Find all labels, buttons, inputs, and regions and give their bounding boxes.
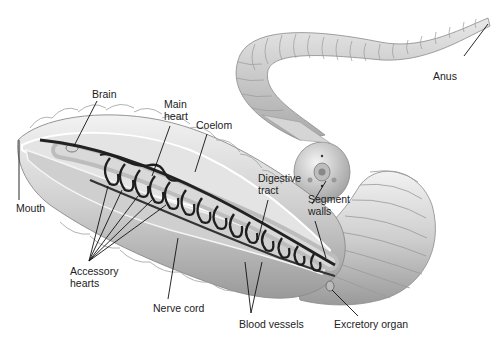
label-nerve-cord: Nerve cord [153, 302, 204, 314]
label-main-heart-line2: heart [164, 110, 188, 122]
label-accessory-hearts-line2: hearts [70, 277, 118, 289]
label-mouth: Mouth [16, 202, 45, 214]
label-excretory-organ: Excretory organ [334, 318, 408, 330]
label-accessory-hearts: Accessory hearts [70, 265, 118, 289]
label-main-heart: Main heart [164, 98, 188, 122]
earthworm-illustration [0, 0, 496, 340]
label-segment-walls-line2: walls [308, 205, 350, 217]
label-segment-walls-line1: Segment [308, 193, 350, 205]
label-main-heart-line1: Main [164, 98, 188, 110]
label-anus: Anus [433, 70, 457, 82]
label-coelom: Coelom [196, 119, 232, 131]
label-digestive-tract-line1: Digestive [258, 172, 301, 184]
label-accessory-hearts-line1: Accessory [70, 265, 118, 277]
label-brain: Brain [92, 88, 117, 100]
label-digestive-tract: Digestive tract [258, 172, 301, 196]
label-blood-vessels: Blood vessels [239, 318, 304, 330]
label-segment-walls: Segment walls [308, 193, 350, 217]
label-digestive-tract-line2: tract [258, 184, 301, 196]
